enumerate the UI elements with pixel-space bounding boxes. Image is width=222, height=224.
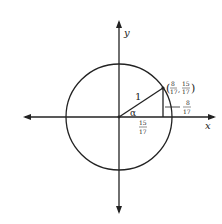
diagram-svg: y x 1 α ( 8 17 , 15 17 ) 8 17 15 17 [0, 0, 222, 224]
unit-circle-diagram: y x 1 α ( 8 17 , 15 17 ) 8 17 15 17 [0, 0, 222, 224]
angle-label: α [130, 108, 136, 118]
point-marker [161, 86, 164, 89]
y-axis-label: y [123, 27, 130, 38]
x-axis-label: x [205, 120, 211, 131]
origin-marker [118, 116, 121, 119]
vertical-leg-denominator: 17 [183, 108, 191, 115]
point-x-numerator: 8 [171, 80, 175, 87]
radius-label: 1 [135, 91, 141, 102]
vertical-leg-numerator: 8 [186, 99, 190, 106]
horizontal-leg-numerator: 15 [139, 119, 147, 126]
point-comma: , [178, 86, 180, 94]
point-y-denominator: 17 [182, 88, 190, 95]
point-y-numerator: 15 [182, 80, 190, 87]
point-close-paren: ) [191, 82, 195, 95]
point-x-denominator: 17 [170, 88, 178, 95]
horizontal-leg-denominator: 17 [139, 128, 147, 135]
